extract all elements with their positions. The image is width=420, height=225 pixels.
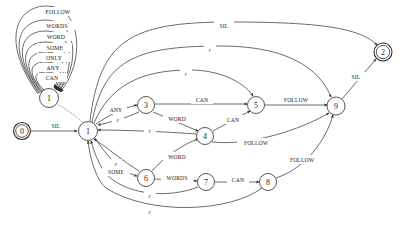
edge-label-4-9: FOLLOW <box>244 140 269 146</box>
node-0[interactable]: 0 <box>14 123 31 140</box>
edge-label-3-5: CAN <box>196 97 208 103</box>
node-7-label: 7 <box>204 178 208 187</box>
node-6[interactable]: 6 <box>138 170 155 187</box>
self-loop-labels: FOLLOW WORDS WORD SOME ONLY ANY CAN <box>37 7 77 82</box>
node-5-label: 5 <box>254 101 258 110</box>
self-loop-label-words: WORDS <box>46 23 68 29</box>
node-5[interactable]: 5 <box>248 97 265 114</box>
edge-label-8-9: FOLLOW <box>290 157 315 163</box>
self-loop-label-can: CAN <box>46 75 59 81</box>
edge-label-1-3: ANY <box>110 107 123 113</box>
edge-label-7-8: CAN <box>232 177 244 183</box>
node-0-label: 0 <box>20 127 24 136</box>
self-loop-label-some: SOME <box>47 45 64 51</box>
node-3-label: 3 <box>144 101 148 110</box>
node-1[interactable]: 1 <box>79 122 98 141</box>
node-6-label: 6 <box>144 174 148 183</box>
edge-label-6-7: WORDS <box>167 175 188 181</box>
node-3[interactable]: 3 <box>138 97 155 114</box>
fsa-graph: FOLLOW WORDS WORD SOME ONLY ANY CAN <box>0 0 420 225</box>
node-9-label: 9 <box>334 102 338 111</box>
node-2-label: 2 <box>381 48 385 57</box>
self-loop-label-any: ANY <box>47 65 60 71</box>
edge-1-9-eps <box>92 46 331 122</box>
node-7[interactable]: 7 <box>198 174 215 191</box>
edge-label-3-4: WORD <box>168 116 186 122</box>
node-1-label: 1 <box>86 127 90 136</box>
fsa-diagram-canvas: FOLLOW WORDS WORD SOME ONLY ANY CAN <box>0 0 420 225</box>
node-1-selfloop[interactable]: 1 <box>40 89 59 108</box>
self-loop-label-follow: FOLLOW <box>46 9 71 15</box>
state-identity-link <box>57 104 82 122</box>
edge-8-9-follow <box>276 115 333 178</box>
self-loop-label-only: ONLY <box>46 55 62 61</box>
edge-label-1-2: SIL <box>220 23 229 29</box>
node-8[interactable]: 8 <box>260 174 277 191</box>
edge-label-1-6: SOME <box>108 169 125 175</box>
edge-label-9-2: SIL <box>352 74 361 80</box>
node-8-label: 8 <box>266 178 270 187</box>
node-2[interactable]: 2 <box>374 43 392 61</box>
self-loop-label-word: WORD <box>47 34 65 40</box>
node-9[interactable]: 9 <box>327 97 345 115</box>
node-4[interactable]: 4 <box>197 128 214 145</box>
edge-label-4-5: CAN <box>227 117 239 123</box>
node-4-label: 4 <box>203 132 207 141</box>
node-1b-label: 1 <box>47 94 51 103</box>
edge-label-6-4: WORD <box>168 154 186 160</box>
self-loop-bundle: FOLLOW WORDS WORD SOME ONLY ANY CAN <box>16 6 77 94</box>
edge-label-5-9: FOLLOW <box>284 97 309 103</box>
edge-label-0-1: SIL <box>52 123 61 129</box>
